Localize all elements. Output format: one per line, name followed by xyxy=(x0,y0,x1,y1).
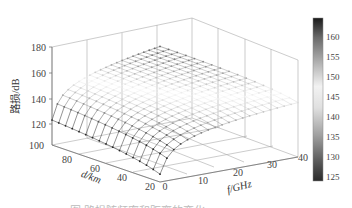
f-tick-10: 10 xyxy=(198,175,208,186)
d-tick-20: 20 xyxy=(145,181,155,192)
f-axis-label: f/GHz xyxy=(226,178,253,195)
f-tick-40: 40 xyxy=(298,152,308,163)
f-tick-0: 0 xyxy=(163,181,168,192)
cb-tick-125: 125 xyxy=(326,172,340,182)
z-tick-100: 100 xyxy=(29,140,44,151)
surface-plot: 180 160 140 120 100 路损/dB 80 60 40 20 d/… xyxy=(0,0,352,208)
colorbar: 160 155 150 145 140 135 130 125 xyxy=(313,18,340,182)
cb-tick-135: 135 xyxy=(326,132,340,142)
f-tick-20: 20 xyxy=(233,167,243,178)
d-tick-80: 80 xyxy=(62,154,72,165)
z-tick-180: 180 xyxy=(31,42,46,53)
cb-tick-130: 130 xyxy=(326,152,340,162)
cb-tick-155: 155 xyxy=(326,52,340,62)
z-tick-160: 160 xyxy=(31,68,46,79)
f-axis: 0 10 20 30 40 f/GHz xyxy=(160,152,308,195)
cb-tick-150: 150 xyxy=(326,72,340,82)
z-axis-label: 路损/dB xyxy=(9,78,21,113)
figure-caption: 图 路损随频率和距离的变化 xyxy=(70,202,300,208)
f-tick-30: 30 xyxy=(267,159,277,170)
d-tick-40: 40 xyxy=(117,172,127,183)
cb-tick-145: 145 xyxy=(326,92,340,102)
z-tick-140: 140 xyxy=(31,94,46,105)
surface-mesh xyxy=(51,46,299,176)
z-tick-120: 120 xyxy=(31,119,46,130)
cb-tick-160: 160 xyxy=(326,32,340,42)
cb-tick-140: 140 xyxy=(326,112,340,122)
z-axis: 180 160 140 120 100 路损/dB xyxy=(9,42,52,151)
